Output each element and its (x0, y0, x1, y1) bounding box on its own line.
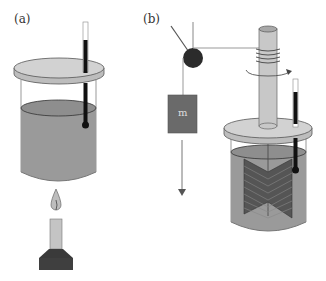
burner (39, 189, 73, 270)
lid-a (14, 58, 104, 84)
diagram-canvas (0, 0, 326, 281)
mass-label: m (178, 107, 187, 118)
rod-cylinder (259, 26, 277, 129)
pulley (171, 22, 260, 95)
down-arrow (178, 140, 186, 196)
